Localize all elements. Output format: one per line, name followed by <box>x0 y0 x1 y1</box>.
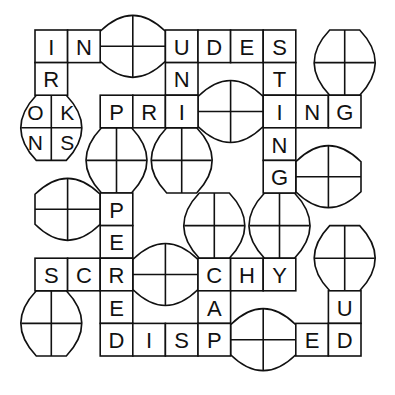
cell-letter: I <box>179 100 185 125</box>
cell-letter: S <box>44 263 59 288</box>
letter-cell[interactable]: N <box>263 128 296 161</box>
oval-quadrant-letter: N <box>28 131 43 154</box>
letter-cell[interactable]: D <box>328 323 361 356</box>
letter-cell[interactable]: P <box>198 323 231 356</box>
cell-letter: T <box>273 67 286 92</box>
letter-cell[interactable]: U <box>165 30 198 63</box>
cell-letter: P <box>109 100 124 125</box>
cell-letter: C <box>76 263 92 288</box>
cell-letter: E <box>305 328 320 353</box>
cell-letter: N <box>272 133 288 158</box>
cell-letter: E <box>109 230 124 255</box>
letter-cell[interactable]: R <box>100 258 133 291</box>
letter-cell[interactable]: D <box>100 323 133 356</box>
letter-cell[interactable]: R <box>133 95 166 128</box>
letter-cell[interactable]: C <box>198 258 231 291</box>
cell-letter: N <box>76 35 92 60</box>
cell-letter: G <box>336 100 353 125</box>
cell-letter: R <box>43 67 59 92</box>
letter-cell[interactable]: S <box>263 30 296 63</box>
oval-tile-slot[interactable]: OKNS <box>21 95 82 160</box>
cell-letter: N <box>304 100 320 125</box>
cell-letter: A <box>207 296 222 321</box>
oval-tile-slot[interactable] <box>198 81 263 143</box>
cell-letter: R <box>141 100 157 125</box>
cell-letter: C <box>206 263 222 288</box>
oval-quadrant-letter: K <box>60 101 74 124</box>
letter-cell[interactable]: A <box>198 291 231 324</box>
oval-tile-slot[interactable] <box>151 128 212 193</box>
cell-letter: S <box>174 328 189 353</box>
oval-tile-slot[interactable] <box>296 146 361 208</box>
letter-cell[interactable]: N <box>165 63 198 96</box>
cell-letter: D <box>337 328 353 353</box>
oval-tile-slot[interactable] <box>314 30 375 95</box>
letter-cell[interactable]: N <box>296 95 329 128</box>
oval-tile-slot[interactable] <box>133 244 198 306</box>
letter-cell[interactable]: H <box>231 258 264 291</box>
letter-cell[interactable]: E <box>100 291 133 324</box>
letter-cell[interactable]: P <box>100 95 133 128</box>
letter-cell[interactable]: E <box>100 226 133 259</box>
cell-letter: U <box>337 296 353 321</box>
oval-tile-slot[interactable] <box>86 128 147 193</box>
cell-letter: N <box>174 67 190 92</box>
letter-cell[interactable]: C <box>68 258 101 291</box>
letter-cell[interactable]: G <box>328 95 361 128</box>
letter-cell[interactable]: S <box>35 258 68 291</box>
cell-letter: I <box>48 35 54 60</box>
oval-tile-slot[interactable] <box>314 226 375 291</box>
letter-cell[interactable]: I <box>263 95 296 128</box>
letter-cell[interactable]: D <box>198 30 231 63</box>
cell-letter: E <box>109 296 124 321</box>
oval-tile-slot[interactable] <box>231 309 296 371</box>
letter-cell[interactable]: P <box>100 193 133 226</box>
letter-cell[interactable]: E <box>231 30 264 63</box>
cell-letter: G <box>271 165 288 190</box>
cell-letter: U <box>174 35 190 60</box>
oval-quadrant-letter: S <box>60 131 74 154</box>
letter-cell[interactable]: Y <box>263 258 296 291</box>
cell-letter: I <box>146 328 152 353</box>
letter-cell[interactable]: S <box>165 323 198 356</box>
cell-letter: H <box>239 263 255 288</box>
letter-cell[interactable]: N <box>68 30 101 63</box>
letter-cell[interactable]: I <box>35 30 68 63</box>
letter-cell[interactable]: R <box>35 63 68 96</box>
oval-tile-slot[interactable] <box>35 178 100 240</box>
oval-quadrant-letter: O <box>27 101 43 124</box>
letter-cell[interactable]: G <box>263 160 296 193</box>
puzzle-board: OKNS INUDESRNTPRIINGNGPESCRCHYEAUDISPED <box>0 0 395 395</box>
cell-letter: P <box>207 328 222 353</box>
cell-letter: D <box>206 35 222 60</box>
cell-letter: P <box>109 198 124 223</box>
letter-cell[interactable]: U <box>328 291 361 324</box>
oval-tile-slot[interactable] <box>100 15 165 77</box>
letter-cell[interactable]: I <box>165 95 198 128</box>
cell-letter: S <box>272 35 287 60</box>
oval-tile-slot[interactable] <box>184 193 245 258</box>
cell-letter: E <box>240 35 255 60</box>
letter-cell[interactable]: T <box>263 63 296 96</box>
cell-letter: Y <box>272 263 287 288</box>
letter-cell[interactable]: E <box>296 323 329 356</box>
letter-cell[interactable]: I <box>133 323 166 356</box>
oval-tile-slot[interactable] <box>21 291 82 356</box>
cell-letter: I <box>276 100 282 125</box>
cell-letter: D <box>109 328 125 353</box>
oval-tile-slot[interactable] <box>249 193 310 258</box>
cell-letter: R <box>109 263 125 288</box>
